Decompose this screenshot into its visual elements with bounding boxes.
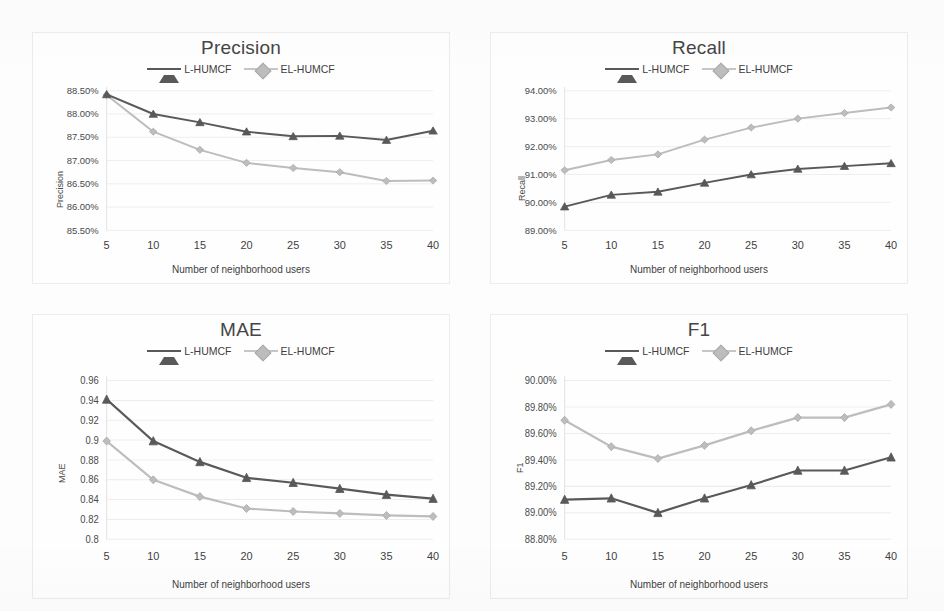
x-tick-label: 15 [194, 239, 206, 251]
series-line-l-humcf [565, 457, 891, 513]
data-point-marker [336, 509, 344, 517]
x-tick-label: 20 [698, 550, 710, 562]
data-point-marker [654, 151, 662, 158]
y-tick-label: 93.00% [525, 114, 557, 124]
y-tick-label: 92.00% [525, 142, 557, 152]
plot-svg-precision: 85.50%86.00%86.50%87.00%87.50%88.00%88.5… [33, 33, 449, 283]
data-point-marker [243, 504, 251, 512]
x-tick-label: 30 [334, 239, 346, 251]
y-tick-label: 90.00% [525, 374, 557, 385]
x-tick-label: 10 [605, 550, 617, 562]
data-point-marker [701, 441, 709, 449]
y-tick-label: 89.80% [525, 401, 557, 412]
y-tick-label: 85.50% [67, 226, 99, 236]
y-axis-title-f1: F1 [515, 462, 525, 473]
series-line-l-humcf [107, 399, 433, 498]
data-point-marker [747, 124, 755, 131]
chart-panel-recall: Recall L-HUMCF EL-HUMCF [472, 0, 944, 306]
y-tick-label: 87.50% [67, 133, 99, 143]
x-tick-label: 40 [885, 239, 897, 251]
x-tick-label: 15 [194, 550, 206, 562]
x-axis-title-mae: Number of neighborhood users [33, 579, 449, 590]
data-point-marker [383, 511, 391, 519]
y-tick-label: 0.86 [80, 474, 98, 485]
data-point-marker [289, 164, 297, 171]
y-tick-label: 88.00% [67, 109, 99, 119]
x-tick-label: 40 [885, 550, 897, 562]
y-tick-label: 89.20% [525, 480, 557, 491]
data-point-marker [336, 169, 344, 176]
x-tick-label: 20 [240, 239, 252, 251]
plot-area-precision: 85.50%86.00%86.50%87.00%87.50%88.00%88.5… [33, 33, 449, 283]
x-axis-title-precision: Number of neighborhood users [33, 264, 449, 275]
x-tick-label: 30 [334, 550, 346, 562]
y-tick-label: 0.88 [80, 454, 98, 465]
y-tick-label: 0.96 [80, 374, 98, 385]
data-point-marker [841, 110, 849, 117]
y-tick-label: 91.00% [525, 170, 557, 180]
x-tick-label: 10 [605, 239, 617, 251]
x-axis-title-f1: Number of neighborhood users [491, 579, 907, 590]
y-tick-label: 0.84 [80, 493, 99, 504]
y-axis-title-precision: Precision [55, 171, 65, 208]
panel-frame-f1: F1 L-HUMCF EL-HUMCF [490, 314, 908, 600]
x-tick-label: 5 [104, 239, 110, 251]
x-tick-label: 35 [380, 239, 392, 251]
data-point-marker [102, 394, 110, 402]
x-tick-label: 5 [104, 550, 110, 562]
data-point-marker [841, 413, 849, 421]
data-point-marker [794, 413, 802, 421]
data-point-marker [561, 416, 569, 424]
y-tick-label: 89.00% [525, 507, 557, 518]
y-tick-label: 0.82 [80, 513, 98, 524]
y-tick-label: 89.60% [525, 427, 557, 438]
panel-frame-mae: MAE L-HUMCF EL-HUMCF [32, 314, 450, 600]
plot-svg-recall: 89.00%90.00%91.00%92.00%93.00%94.00%5101… [491, 33, 907, 283]
y-tick-label: 86.50% [67, 179, 99, 189]
plot-area-recall: 89.00%90.00%91.00%92.00%93.00%94.00%5101… [491, 33, 907, 283]
data-point-marker [701, 136, 709, 143]
x-tick-label: 10 [147, 239, 159, 251]
x-tick-label: 25 [287, 550, 299, 562]
x-tick-label: 20 [240, 550, 252, 562]
x-tick-label: 15 [652, 239, 664, 251]
y-tick-label: 86.00% [67, 203, 99, 213]
x-tick-label: 40 [427, 239, 439, 251]
chart-panel-mae: MAE L-HUMCF EL-HUMCF [0, 306, 472, 611]
x-tick-label: 35 [380, 550, 392, 562]
series-line-el-humcf [107, 95, 433, 181]
data-point-marker [654, 454, 662, 462]
data-point-marker [196, 146, 204, 153]
data-point-marker [561, 167, 569, 174]
figure-page: Precision L-HUMCF EL-HUMCF [0, 0, 944, 611]
series-line-l-humcf [565, 163, 891, 206]
x-tick-label: 20 [698, 239, 710, 251]
data-point-marker [429, 177, 437, 184]
chart-panel-f1: F1 L-HUMCF EL-HUMCF [472, 306, 944, 611]
y-tick-label: 0.9 [86, 434, 99, 445]
x-tick-label: 25 [287, 239, 299, 251]
x-tick-label: 5 [562, 550, 568, 562]
y-tick-label: 87.00% [67, 156, 99, 166]
x-tick-label: 35 [838, 239, 850, 251]
y-tick-label: 94.00% [525, 86, 557, 96]
chart-grid: Precision L-HUMCF EL-HUMCF [0, 0, 944, 611]
plot-svg-mae: 0.80.820.840.860.880.90.920.940.96510152… [33, 315, 449, 599]
x-tick-label: 40 [427, 550, 439, 562]
x-tick-label: 5 [562, 239, 568, 251]
y-tick-label: 0.92 [80, 414, 98, 425]
data-point-marker [289, 507, 297, 515]
data-point-marker [887, 104, 895, 111]
y-tick-label: 0.94 [80, 394, 99, 405]
x-tick-label: 25 [745, 239, 757, 251]
panel-frame-recall: Recall L-HUMCF EL-HUMCF [490, 32, 908, 284]
x-tick-label: 30 [792, 550, 804, 562]
y-tick-label: 0.8 [86, 533, 99, 544]
y-tick-label: 88.80% [525, 533, 557, 544]
y-axis-title-recall: Recall [517, 176, 527, 201]
data-point-marker [887, 452, 895, 460]
x-axis-title-recall: Number of neighborhood users [491, 264, 907, 275]
chart-panel-precision: Precision L-HUMCF EL-HUMCF [0, 0, 472, 306]
series-line-el-humcf [565, 404, 891, 458]
plot-area-mae: 0.80.820.840.860.880.90.920.940.96510152… [33, 315, 449, 599]
